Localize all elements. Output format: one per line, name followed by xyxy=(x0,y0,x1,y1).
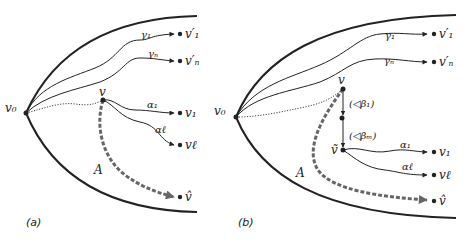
edge-gamma-1-label: γ₁ xyxy=(141,29,151,40)
branch-node-label: v xyxy=(99,85,106,99)
target-v1-prime-label: v′₁ xyxy=(439,27,453,41)
target-vn-prime-label: v′ₙ xyxy=(439,55,454,69)
target-vhat-label: v̂ xyxy=(185,190,192,204)
target-vn-prime-label: v′ₙ xyxy=(185,54,200,68)
target-v1-label: v₁ xyxy=(439,145,451,159)
edge-alpha-l-label: αℓ xyxy=(155,124,166,135)
edge-alpha-1-label: α₁ xyxy=(400,139,411,150)
path-alpha-1 xyxy=(103,100,174,113)
cone-upper-boundary xyxy=(26,16,197,113)
target-vl-label: vℓ xyxy=(185,138,197,152)
path-gamma-n xyxy=(236,59,427,117)
panel-a: v₀ v γ₁ γₙ v′₁ v′ₙ α₁ αℓ v₁ vℓ A v̂ (a) xyxy=(5,16,200,229)
target-v1-prime-label: v′₁ xyxy=(185,27,199,41)
edge-gamma-1-label: γ₁ xyxy=(385,30,395,41)
path-alpha-l xyxy=(103,100,174,145)
edge-alpha-1-label: α₁ xyxy=(147,99,158,110)
target-v1-label: v₁ xyxy=(185,106,197,120)
dotted-path xyxy=(26,100,103,113)
root-label: v₀ xyxy=(214,104,226,118)
path-alpha-l xyxy=(343,150,427,175)
chain-edge-beta-1-label: (◁β₁) xyxy=(349,98,374,109)
branch-node-label: v xyxy=(338,73,345,87)
path-alpha-1 xyxy=(343,149,427,152)
dashed-path-A xyxy=(100,100,174,197)
root-label: v₀ xyxy=(5,101,17,115)
chain-edge-beta-m-label: (◁βₘ) xyxy=(349,130,377,141)
edge-gamma-n-label: γₙ xyxy=(384,55,394,66)
dashed-path-label: A xyxy=(295,166,305,180)
edge-alpha-l-label: αℓ xyxy=(402,161,413,172)
panel-b-label: (b) xyxy=(238,216,254,229)
panel-b: v₀ v γ₁ γₙ v′₁ v′ₙ (◁β₁) (◁βₘ) ṽ α₁ αℓ v… xyxy=(214,15,456,229)
dashed-path-label: A xyxy=(93,163,103,177)
edge-gamma-n-label: γₙ xyxy=(148,48,158,59)
dotted-path xyxy=(236,89,343,117)
target-vl-label: vℓ xyxy=(439,168,451,182)
cone-lower-boundary xyxy=(236,117,456,218)
target-vhat-label: v̂ xyxy=(439,194,446,208)
chain-end-label: ṽ xyxy=(331,143,338,157)
cone-upper-boundary xyxy=(236,15,456,117)
panel-a-label: (a) xyxy=(26,216,41,229)
diagram-canvas: v₀ v γ₁ γₙ v′₁ v′ₙ α₁ αℓ v₁ vℓ A v̂ (a) xyxy=(0,0,470,243)
